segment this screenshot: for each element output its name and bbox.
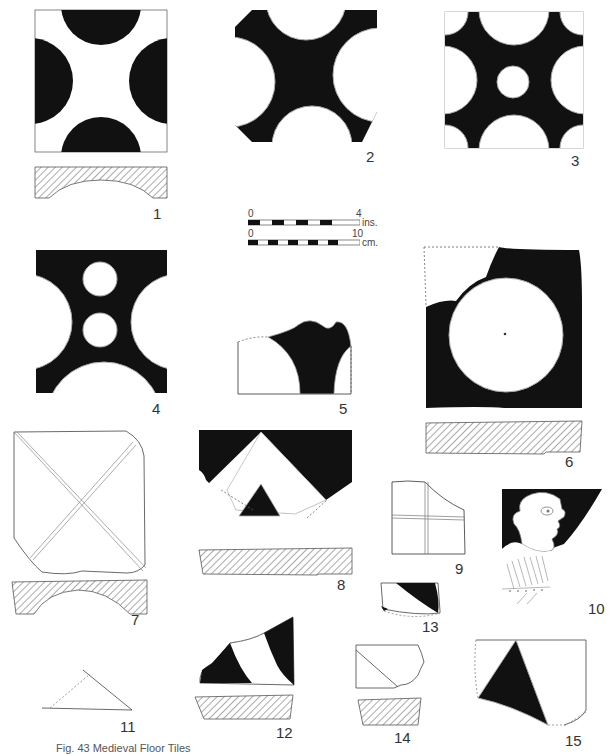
tile-8-drawing bbox=[199, 430, 359, 580]
tile-7-number: 7 bbox=[131, 611, 139, 628]
scale-inches-unit: ins. bbox=[362, 217, 378, 228]
scale-bar: 0 4 ins. 0 10 cm. bbox=[246, 208, 386, 250]
scale-inches-start: 0 bbox=[248, 208, 254, 219]
tile-10-drawing bbox=[502, 489, 609, 609]
tile-4-drawing bbox=[36, 250, 169, 395]
figure-caption: Fig. 43 Medieval Floor Tiles bbox=[56, 742, 191, 754]
tile-13-number: 13 bbox=[422, 618, 439, 635]
tile-2-drawing bbox=[235, 10, 377, 145]
tile-14-drawing bbox=[356, 645, 431, 735]
tile-15-number: 15 bbox=[565, 732, 582, 749]
tile-6-number: 6 bbox=[565, 453, 573, 470]
tile-12-number: 12 bbox=[276, 724, 293, 741]
tile-13-drawing bbox=[378, 581, 443, 619]
tile-4-number: 4 bbox=[152, 400, 160, 417]
tile-10-number: 10 bbox=[588, 600, 605, 617]
tile-9-drawing bbox=[392, 480, 472, 560]
tile-3-drawing bbox=[445, 12, 585, 152]
tile-15-drawing bbox=[476, 640, 591, 730]
tile-3-number: 3 bbox=[571, 152, 579, 169]
tile-2-number: 2 bbox=[366, 148, 374, 165]
tile-14-number: 14 bbox=[394, 729, 411, 746]
tile-6-drawing bbox=[424, 245, 584, 467]
tile-9-number: 9 bbox=[455, 560, 463, 577]
tile-1-drawing bbox=[35, 10, 170, 200]
tile-7-drawing bbox=[12, 430, 150, 630]
tile-1-number: 1 bbox=[153, 205, 161, 222]
scale-cm-unit: cm. bbox=[362, 237, 378, 248]
tile-11-drawing bbox=[40, 668, 135, 713]
tile-12-drawing bbox=[192, 615, 302, 725]
tile-5-drawing bbox=[238, 320, 353, 395]
tile-8-number: 8 bbox=[337, 576, 345, 593]
scale-inches-end: 4 bbox=[356, 208, 362, 219]
scale-cm-start: 0 bbox=[248, 228, 254, 239]
tile-5-number: 5 bbox=[339, 400, 347, 417]
tile-11-number: 11 bbox=[120, 718, 136, 735]
